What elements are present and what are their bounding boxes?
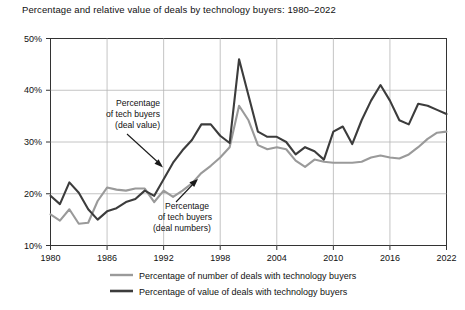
chart-legend: Percentage of number of deals with techn…: [110, 271, 357, 297]
legend-label-value-of-deals: Percentage of value of deals with techno…: [139, 287, 348, 297]
x-tick-label-2022: 2022: [436, 253, 456, 263]
x-tick-label-1980: 1980: [40, 253, 60, 263]
x-tick-label-2004: 2004: [267, 253, 287, 263]
annot-deal-numbers-line2: of tech buyers: [158, 212, 212, 222]
annot-deal-numbers-line3: (deal numbers): [153, 223, 211, 233]
annot-deal-value-line3: (deal value): [115, 120, 160, 130]
x-tick-label-2010: 2010: [323, 253, 343, 263]
plot-area-container: 50% 40% 30% 20% 10% 1980 1986 1992 1998 …: [0, 0, 465, 310]
annot-deal-numbers-line1: Percentage: [165, 201, 209, 211]
y-tick-label-50: 50%: [24, 34, 42, 44]
annot-deal-value-line2: of tech buyers: [106, 109, 160, 119]
chart-figure: Percentage and relative value of deals b…: [0, 0, 465, 310]
x-tick-label-1986: 1986: [97, 253, 117, 263]
legend-label-number-of-deals: Percentage of number of deals with techn…: [139, 271, 357, 281]
annot-deal-value-line1: Percentage: [116, 98, 160, 108]
y-tick-label-40: 40%: [24, 85, 42, 95]
x-tick-label-1992: 1992: [154, 253, 174, 263]
y-tick-label-20: 20%: [24, 189, 42, 199]
chart-svg: 50% 40% 30% 20% 10% 1980 1986 1992 1998 …: [0, 0, 465, 310]
x-tick-marks: [51, 246, 447, 251]
x-tick-label-1998: 1998: [210, 253, 230, 263]
x-tick-label-2016: 2016: [380, 253, 400, 263]
y-tick-label-10: 10%: [24, 241, 42, 251]
y-tick-label-30: 30%: [24, 137, 42, 147]
